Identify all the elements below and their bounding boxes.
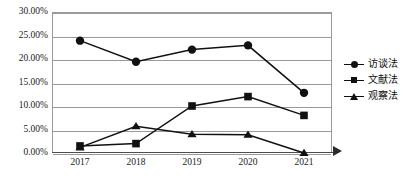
data-point-marker xyxy=(132,140,140,148)
series-3 xyxy=(75,122,308,156)
data-point-marker xyxy=(300,112,308,120)
legend-item[interactable]: 观察法 xyxy=(344,88,414,104)
legend-item[interactable]: 访谈法 xyxy=(344,56,414,72)
legend-item-label: 访谈法 xyxy=(364,59,398,69)
data-point-marker xyxy=(244,93,252,101)
series-2 xyxy=(76,93,308,150)
legend-key-triangle-icon xyxy=(344,90,364,102)
data-point-marker xyxy=(244,41,252,49)
legend-item[interactable]: 文献法 xyxy=(344,72,414,88)
data-point-marker xyxy=(188,102,196,110)
legend-item-label: 文献法 xyxy=(364,75,398,85)
data-point-marker xyxy=(131,122,140,129)
series-1 xyxy=(76,36,308,97)
legend-key-circle-icon xyxy=(344,58,364,70)
data-point-marker xyxy=(300,89,308,97)
data-point-marker xyxy=(132,58,140,66)
data-point-marker xyxy=(76,36,84,44)
data-point-marker xyxy=(188,45,196,53)
legend-key-marker xyxy=(350,93,358,100)
legend-key-square-icon xyxy=(344,74,364,86)
legend-item-label: 观察法 xyxy=(364,91,398,101)
legend-key-marker xyxy=(351,61,358,68)
legend-key-marker xyxy=(351,77,358,84)
chart-legend: 访谈法文献法观察法 xyxy=(344,56,414,104)
line-chart: 0.00%5.00%10.00%15.00%20.00%25.00%30.00%… xyxy=(0,0,414,181)
